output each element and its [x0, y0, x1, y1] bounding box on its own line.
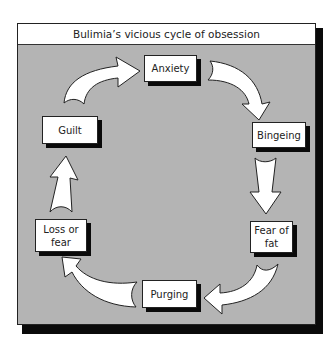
node-label: Bingeing: [252, 122, 306, 148]
arrow-anxiety-to-bingeing: [208, 61, 270, 120]
node-anxiety: Anxiety: [144, 55, 197, 82]
arrow-fear-to-purging: [204, 264, 278, 314]
node-label: Anxiety: [144, 55, 197, 82]
node-loss-or-fear: Loss or fear: [35, 219, 87, 252]
node-bingeing: Bingeing: [252, 122, 306, 148]
node-label: Fear of fat: [250, 221, 293, 253]
node-label: Loss or fear: [35, 219, 87, 252]
node-fear-of-fat: Fear of fat: [250, 221, 293, 253]
arrow-bingeing-to-fear: [250, 158, 281, 214]
arrow-guilt-to-anxiety: [64, 57, 140, 104]
arrow-purging-to-loss: [62, 257, 137, 307]
node-label: Guilt: [42, 116, 98, 144]
node-label: Purging: [142, 280, 197, 308]
node-guilt: Guilt: [42, 116, 98, 144]
arrow-loss-to-guilt: [50, 156, 78, 212]
node-purging: Purging: [142, 280, 197, 308]
